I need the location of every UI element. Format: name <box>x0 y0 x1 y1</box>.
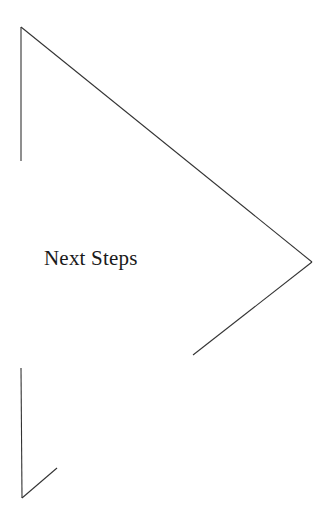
slide-canvas: Next Steps <box>0 0 330 520</box>
chevron-upper-diagonal <box>21 27 312 262</box>
lower-arrow-vertical <box>21 368 22 498</box>
chevron-lower-diagonal <box>193 262 312 355</box>
lower-arrow-diagonal <box>22 468 57 498</box>
page-title: Next Steps <box>44 245 138 271</box>
